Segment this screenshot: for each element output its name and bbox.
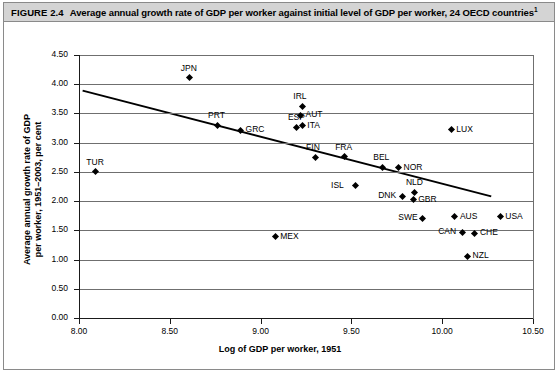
y-axis-tick-label: 2.50 [38, 166, 68, 176]
data-point-label: TUR [86, 157, 103, 167]
data-point-marker[interactable] [213, 122, 220, 129]
data-point-marker[interactable] [272, 233, 279, 240]
trendline [4, 3, 556, 371]
data-point-label: CAN [438, 226, 456, 236]
y-axis-tick-label: 1.00 [38, 254, 68, 264]
data-point-label: NLD [406, 177, 423, 187]
data-point-marker[interactable] [341, 153, 348, 160]
data-point-label: BEL [373, 152, 389, 162]
x-axis-tick [442, 319, 443, 324]
y-axis-tick-label: 0.00 [38, 312, 68, 322]
x-axis-tick-label: 8.00 [59, 326, 99, 336]
y-axis-tick-label: 4.00 [38, 78, 68, 88]
y-axis-line [79, 55, 80, 319]
figure-frame: FIGURE 2.4 Average annual growth rate of… [3, 2, 555, 370]
y-axis-tick-label: 4.50 [38, 49, 68, 59]
data-point-marker[interactable] [448, 126, 455, 133]
data-point-marker[interactable] [92, 168, 99, 175]
data-point-marker[interactable] [419, 215, 426, 222]
y-axis-tick-label: 3.00 [38, 137, 68, 147]
y-axis-tick-label: 3.50 [38, 107, 68, 117]
data-point-label: IRL [293, 91, 306, 101]
data-point-label: FRA [335, 142, 352, 152]
data-point-marker[interactable] [410, 196, 417, 203]
x-axis-tick-label: 10.50 [513, 326, 553, 336]
data-point-label: GBR [418, 194, 436, 204]
x-axis-tick-label: 9.50 [331, 326, 371, 336]
data-point-label: AUT [306, 109, 323, 119]
data-point-label: USA [505, 211, 522, 221]
data-point-label: ISL [331, 180, 344, 190]
gridline-horizontal [79, 84, 533, 85]
scatter-chart: Average annual growth rate of GDPper wor… [4, 3, 556, 371]
data-point-label: NZL [473, 250, 489, 260]
x-axis-title: Log of GDP per worker, 1951 [4, 344, 556, 354]
data-point-label: CHE [480, 227, 498, 237]
y-axis-tick-label: 0.50 [38, 283, 68, 293]
data-point-label: SWE [398, 212, 417, 222]
gridline-horizontal [79, 201, 533, 202]
x-axis-tick [170, 319, 171, 324]
y-axis-tick-label: 1.50 [38, 224, 68, 234]
data-point-marker[interactable] [299, 122, 306, 129]
x-axis-line [79, 318, 534, 319]
x-axis-tick [79, 319, 80, 324]
data-point-label: PRT [208, 110, 225, 120]
plot-right-border [533, 55, 534, 319]
data-point-label: MEX [280, 231, 298, 241]
gridline-horizontal [79, 289, 533, 290]
x-axis-tick-label: 10.00 [422, 326, 462, 336]
data-point-marker[interactable] [399, 193, 406, 200]
gridline-horizontal [79, 55, 533, 56]
data-point-marker[interactable] [395, 164, 402, 171]
data-point-label: FIN [306, 142, 320, 152]
data-point-label: LUX [456, 124, 473, 134]
data-point-marker[interactable] [237, 127, 244, 134]
x-axis-tick [261, 319, 262, 324]
x-axis-tick [533, 319, 534, 324]
data-point-marker[interactable] [351, 182, 358, 189]
data-point-label: NOR [404, 162, 423, 172]
data-point-marker[interactable] [464, 253, 471, 260]
y-axis-title-line1: Average annual growth rate of GDP [22, 53, 33, 326]
y-axis-tick-label: 2.00 [38, 195, 68, 205]
data-point-marker[interactable] [312, 154, 319, 161]
x-axis-tick-label: 8.50 [150, 326, 190, 336]
data-point-marker[interactable] [186, 74, 193, 81]
x-axis-tick [351, 319, 352, 324]
x-axis-tick-label: 9.00 [241, 326, 281, 336]
data-point-marker[interactable] [451, 213, 458, 220]
data-point-label: GRC [246, 124, 265, 134]
data-point-label: JPN [181, 63, 197, 73]
gridline-horizontal [79, 260, 533, 261]
data-point-marker[interactable] [379, 164, 386, 171]
data-point-label: ITA [307, 120, 320, 130]
gridline-horizontal [79, 172, 533, 173]
data-point-label: AUS [460, 211, 477, 221]
data-point-marker[interactable] [497, 213, 504, 220]
data-point-label: DNK [378, 190, 396, 200]
